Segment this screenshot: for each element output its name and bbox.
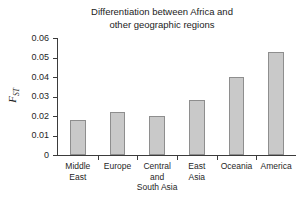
x-axis-label-line: Asia xyxy=(171,172,223,183)
y-axis-tick-label: 0.04 xyxy=(31,73,49,82)
plot-area xyxy=(58,38,296,155)
x-axis-tick xyxy=(137,156,138,160)
y-axis-tick xyxy=(53,38,57,39)
chart-title-line-2: other geographic regions xyxy=(44,19,280,32)
y-axis-tick xyxy=(53,155,57,156)
y-axis-tick-label: 0.05 xyxy=(31,53,49,62)
x-axis-label: America xyxy=(250,161,302,172)
y-axis-tick-label: 0 xyxy=(44,151,49,160)
x-axis-tick xyxy=(98,156,99,160)
bar xyxy=(149,116,165,155)
y-axis-tick xyxy=(53,136,57,137)
x-axis-label-line: America xyxy=(250,161,302,172)
y-axis-tick-label: 0.01 xyxy=(31,131,49,140)
y-axis-tick-label: 0.06 xyxy=(31,34,49,43)
bar xyxy=(268,52,284,155)
x-axis-tick xyxy=(217,156,218,160)
y-axis-tick-label: 0.03 xyxy=(31,92,49,101)
bar xyxy=(229,77,245,155)
y-axis-tick xyxy=(53,77,57,78)
bar xyxy=(110,112,126,155)
bar-chart: Differentiation between Africa and other… xyxy=(0,0,308,203)
chart-title-line-1: Differentiation between Africa and xyxy=(44,6,280,19)
y-axis-title-symbol: F xyxy=(6,96,18,103)
y-axis-title: FST xyxy=(7,76,22,116)
bar xyxy=(70,120,86,155)
y-axis-tick xyxy=(53,58,57,59)
y-axis-title-subscript: ST xyxy=(12,88,21,96)
y-axis-tick xyxy=(53,97,57,98)
x-axis-label-line: East xyxy=(52,172,104,183)
y-axis-tick xyxy=(53,116,57,117)
x-axis-label-line: South Asia xyxy=(131,182,183,193)
y-axis-tick-label: 0.02 xyxy=(31,112,49,121)
x-axis-tick xyxy=(177,156,178,160)
chart-title: Differentiation between Africa and other… xyxy=(44,6,280,31)
x-axis-tick xyxy=(256,156,257,160)
bar xyxy=(189,100,205,155)
